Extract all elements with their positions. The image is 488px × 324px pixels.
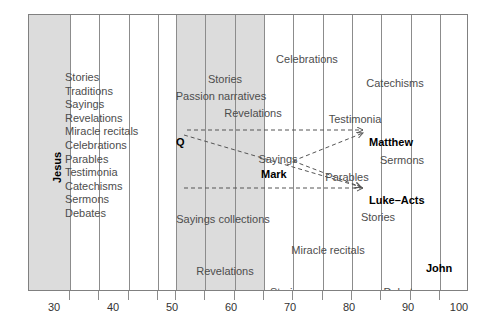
tick-label-90: 90	[402, 301, 414, 313]
list-item: Sayings	[65, 98, 138, 112]
node-matthew: Matthew	[369, 136, 413, 149]
label-sermons: Sermons	[380, 154, 424, 167]
label-revelations-upper: Revelations	[224, 107, 281, 120]
label-revelations-lower: Revelations	[196, 265, 253, 278]
tick-90	[410, 291, 411, 300]
tick-label-60: 60	[225, 301, 237, 313]
label-stories-upper-mid: Stories	[208, 73, 242, 86]
gridline-85	[381, 15, 382, 290]
tick-65	[263, 291, 264, 300]
label-miracle-recitals-lower: Miracle recitals	[291, 244, 364, 257]
tick-label-40: 40	[107, 301, 119, 313]
label-parables: Parables	[325, 171, 368, 184]
tick-70	[292, 291, 293, 300]
list-item: Parables	[65, 153, 138, 167]
list-item: Catechisms	[65, 180, 138, 194]
list-item: Stories	[65, 71, 138, 85]
list-item: Debates	[65, 207, 138, 221]
gridline-90	[411, 15, 412, 290]
gridline-60	[235, 15, 236, 290]
tick-85	[380, 291, 381, 300]
label-celebrations-upper: Celebrations	[276, 53, 338, 66]
gridline-95	[440, 15, 441, 290]
band-oral-period	[176, 15, 264, 290]
label-stories-right-mid: Stories	[361, 211, 395, 224]
gridline-50	[176, 15, 177, 290]
node-john: John	[426, 262, 452, 275]
label-sayings-collections: Sayings collections	[176, 213, 270, 226]
plot-area: Jesus Stories Traditions Sayings Revelat…	[28, 14, 468, 291]
list-item: Miracle recitals	[65, 125, 138, 139]
tick-label-80: 80	[343, 301, 355, 313]
gridline-45	[158, 15, 159, 290]
label-jesus: Jesus	[51, 152, 63, 183]
tick-label-70: 70	[284, 301, 296, 313]
list-item: Sermons	[65, 193, 138, 207]
list-item: Testimonia	[65, 166, 138, 180]
gridline-55	[205, 15, 206, 290]
tick-label-100: 100	[450, 301, 468, 313]
label-passion-narratives: Passion narratives	[176, 90, 267, 103]
tick-35	[98, 291, 99, 300]
tick-45	[157, 291, 158, 300]
list-item: Traditions	[65, 85, 138, 99]
node-mark: Mark	[261, 168, 287, 181]
tick-80	[351, 291, 352, 300]
tick-60	[234, 291, 235, 300]
label-catechisms-upper: Catechisms	[366, 77, 423, 90]
node-q: Q	[176, 136, 185, 149]
tick-50	[175, 291, 176, 300]
node-luke-acts: Luke–Acts	[369, 194, 425, 207]
figure-canvas: Jesus Stories Traditions Sayings Revelat…	[0, 0, 488, 324]
tick-55	[204, 291, 205, 300]
tick-label-50: 50	[166, 301, 178, 313]
band-jesus	[29, 15, 70, 290]
tick-95	[439, 291, 440, 300]
list-item: Celebrations	[65, 139, 138, 153]
tick-75	[322, 291, 323, 300]
list-early-oral-forms: Stories Traditions Sayings Revelations M…	[65, 71, 138, 221]
tick-30	[69, 291, 70, 300]
label-sayings: Sayings	[258, 153, 297, 166]
label-testimonia: Testimonia	[329, 113, 382, 126]
tick-40	[128, 291, 129, 300]
x-axis: 30 40 50 60 70 80 90 100	[28, 291, 468, 324]
tick-label-30: 30	[48, 301, 60, 313]
list-item: Revelations	[65, 112, 138, 126]
